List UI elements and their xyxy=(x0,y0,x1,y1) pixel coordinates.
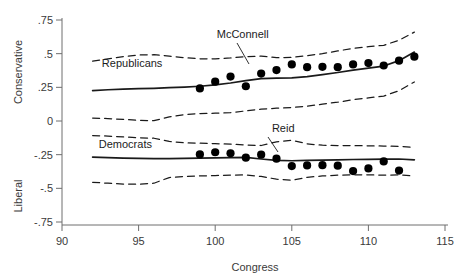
y-tick-label: 0 xyxy=(47,115,53,127)
data-point xyxy=(364,59,372,67)
y-tick-label: -.5 xyxy=(40,182,53,194)
data-point xyxy=(196,84,204,92)
data-point xyxy=(395,57,403,65)
data-point xyxy=(380,157,388,165)
y-tick-label: .5 xyxy=(44,48,53,60)
data-point xyxy=(211,148,219,156)
chart-background xyxy=(0,0,456,278)
data-point xyxy=(257,151,265,159)
data-point xyxy=(334,63,342,71)
data-point xyxy=(349,167,357,175)
data-point xyxy=(334,162,342,170)
data-point xyxy=(242,154,250,162)
reid-label: Reid xyxy=(272,122,295,134)
x-tick-label: 105 xyxy=(283,235,301,247)
y-axis-title-top: Conservative xyxy=(12,40,24,104)
republicans-label: Republicans xyxy=(102,57,163,69)
data-point xyxy=(395,166,403,174)
x-tick-label: 110 xyxy=(360,235,378,247)
data-point xyxy=(288,162,296,170)
data-point xyxy=(257,69,265,77)
x-tick-label: 95 xyxy=(132,235,144,247)
data-point xyxy=(303,63,311,71)
y-axis-title-bottom: Liberal xyxy=(12,179,24,212)
data-point xyxy=(211,78,219,86)
data-point xyxy=(272,66,280,74)
data-point xyxy=(288,60,296,68)
y-tick-label: .75 xyxy=(38,14,53,26)
data-point xyxy=(364,164,372,172)
y-tick-label: -.75 xyxy=(34,216,53,228)
chart-figure: .75.5.250-.25-.5-.75 Conservative Libera… xyxy=(0,0,456,278)
mcconnell-label: McConnell xyxy=(217,28,269,40)
y-tick-label: -.25 xyxy=(34,149,53,161)
data-point xyxy=(318,161,326,169)
data-point xyxy=(349,60,357,68)
data-point xyxy=(380,61,388,69)
y-tick-label: .25 xyxy=(38,81,53,93)
data-point xyxy=(303,161,311,169)
data-point xyxy=(226,72,234,80)
x-tick-label: 100 xyxy=(206,235,224,247)
data-point xyxy=(242,82,250,90)
democrats-label: Democrats xyxy=(99,138,153,150)
x-tick-label: 115 xyxy=(436,235,454,247)
data-point xyxy=(410,53,418,61)
data-point xyxy=(196,150,204,158)
data-point xyxy=(226,149,234,157)
chart-svg: .75.5.250-.25-.5-.75 Conservative Libera… xyxy=(0,0,456,278)
data-point xyxy=(318,63,326,71)
x-axis-title: Congress xyxy=(231,261,279,273)
data-point xyxy=(272,155,280,163)
x-tick-label: 90 xyxy=(56,235,68,247)
